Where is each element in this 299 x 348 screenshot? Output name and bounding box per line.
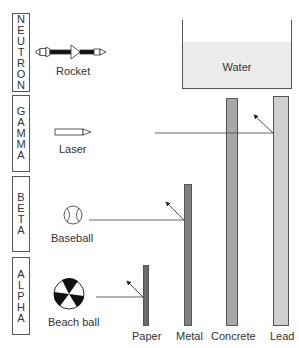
gamma-deflect-arrow — [254, 115, 273, 133]
diagram-drawings — [0, 0, 299, 348]
laser-icon — [55, 129, 91, 135]
alpha-deflect-arrow — [127, 281, 143, 297]
rocket-icon — [36, 45, 106, 59]
baseball-icon — [64, 206, 82, 224]
beta-deflect-arrow — [166, 202, 184, 220]
beach-ball-icon — [54, 278, 84, 309]
